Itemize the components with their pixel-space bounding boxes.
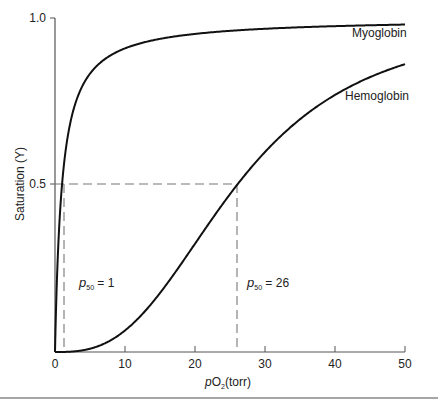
hemoglobin-curve (55, 64, 405, 352)
y-axis-title: Saturation (Y) (13, 147, 27, 221)
x-tick-label-10: 10 (118, 357, 132, 371)
x-ticks (125, 346, 405, 352)
x-tick-label-0: 0 (52, 357, 59, 371)
hemoglobin-label: Hemoglobin (345, 89, 409, 103)
y-tick-label-1: 1.0 (29, 11, 46, 25)
x-tick-label-40: 40 (328, 357, 342, 371)
myoglobin-curve (55, 25, 405, 352)
x-tick-label-20: 20 (188, 357, 202, 371)
x-tick-label-50: 50 (398, 357, 412, 371)
oxygen-saturation-chart: 1.0 0.5 0 10 20 30 40 50 Saturation (Y) … (0, 0, 438, 405)
myoglobin-label: Myoglobin (352, 26, 407, 40)
y-tick-label-05: 0.5 (29, 177, 46, 191)
x-axis-title: pO2(torr) (204, 375, 251, 390)
p50-guides (55, 184, 237, 352)
p50-myoglobin-annotation: p50 = 1 (78, 275, 115, 291)
p50-hemoglobin-annotation: p50 = 26 (246, 275, 289, 291)
x-tick-label-30: 30 (258, 357, 272, 371)
